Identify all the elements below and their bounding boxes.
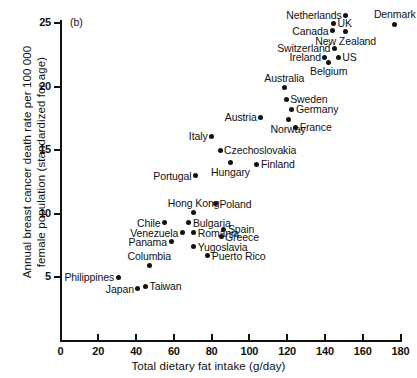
point-label-columbia: Columbia <box>127 251 171 262</box>
data-point-hong-kong <box>191 210 196 215</box>
point-label-hungary: Hungary <box>211 167 250 178</box>
data-point-venezuela <box>180 230 185 235</box>
y-tick-15 <box>54 149 60 151</box>
data-point-greece <box>219 234 224 239</box>
x-tick-label-160: 160 <box>348 345 378 357</box>
point-label-france: France <box>300 122 332 133</box>
y-axis-title-line2: female population (standardized for age) <box>34 7 48 317</box>
x-tick-100 <box>248 334 250 340</box>
data-point-denmark <box>392 22 397 27</box>
data-point-japan <box>135 286 140 291</box>
data-point-romania <box>191 230 196 235</box>
y-tick-5 <box>54 276 60 278</box>
data-point-canada <box>330 28 335 33</box>
x-tick-160 <box>362 334 364 340</box>
x-tick-label-140: 140 <box>310 345 340 357</box>
point-label-ireland: Ireland <box>290 52 321 63</box>
y-tick-20 <box>54 86 60 88</box>
point-label-australia: Australia <box>264 73 304 84</box>
data-point-czechoslovakia <box>218 148 223 153</box>
y-axis-title: Annual breast cancer death rate per 100 … <box>20 7 48 317</box>
point-label-austria: Austria <box>225 112 257 123</box>
point-label-panama: Panama <box>128 236 167 247</box>
x-tick-label-20: 20 <box>83 345 113 357</box>
point-label-hong-kong: Hong Kong <box>168 198 220 209</box>
data-point-columbia <box>147 263 152 268</box>
x-tick-label-80: 80 <box>197 345 227 357</box>
x-tick-label-180: 180 <box>386 345 416 357</box>
x-tick-20 <box>97 334 99 340</box>
data-point-us <box>336 55 341 60</box>
x-axis-line <box>60 340 402 342</box>
plot-area: 510152025 020406080100120140160180 Nethe… <box>0 0 417 378</box>
point-label-poland: Poland <box>219 198 251 209</box>
x-tick-label-0: 0 <box>46 345 76 357</box>
data-point-austria <box>258 115 263 120</box>
x-tick-80 <box>211 334 213 340</box>
point-label-philippines: Philippines <box>64 272 114 283</box>
data-point-hungary <box>228 160 233 165</box>
data-point-taiwan <box>143 284 148 289</box>
data-point-panama <box>169 239 174 244</box>
data-point-chile <box>162 220 167 225</box>
data-point-norway <box>286 117 291 122</box>
point-label-japan: Japan <box>106 283 134 294</box>
y-axis-title-line1: Annual breast cancer death rate per 100 … <box>20 7 34 317</box>
x-tick-120 <box>286 334 288 340</box>
point-label-puerto-rico: Puerto Rico <box>212 250 266 261</box>
x-tick-180 <box>400 334 402 340</box>
data-point-switzerland <box>332 46 337 51</box>
data-point-philippines <box>116 275 121 280</box>
panel-label: (b) <box>70 16 83 28</box>
data-point-ireland <box>322 55 327 60</box>
data-point-finland <box>254 162 259 167</box>
point-label-taiwan: Taiwan <box>150 281 182 292</box>
point-label-finland: Finland <box>261 159 295 170</box>
x-tick-140 <box>324 334 326 340</box>
scatter-plot-figure: 510152025 020406080100120140160180 Nethe… <box>0 0 417 378</box>
x-axis-title: Total dietary fat intake (g/day) <box>0 360 417 372</box>
data-point-new-zealand <box>343 29 348 34</box>
data-point-uk <box>331 21 336 26</box>
data-point-bulgaria <box>186 220 191 225</box>
point-label-germany: Germany <box>296 104 338 115</box>
point-label-denmark: Denmark <box>374 9 416 20</box>
x-tick-label-60: 60 <box>159 345 189 357</box>
x-tick-60 <box>173 334 175 340</box>
point-label-portugal: Portugal <box>153 170 191 181</box>
data-point-sweden <box>284 97 289 102</box>
data-point-france <box>293 125 298 130</box>
data-point-puerto-rico <box>205 253 210 258</box>
data-point-italy <box>209 134 214 139</box>
x-tick-label-40: 40 <box>121 345 151 357</box>
data-point-australia <box>282 85 287 90</box>
y-tick-10 <box>54 213 60 215</box>
point-label-czechoslovakia: Czechoslovakia <box>224 145 296 156</box>
point-label-uk: UK <box>337 18 351 29</box>
data-point-germany <box>289 107 294 112</box>
data-point-portugal <box>193 173 198 178</box>
data-point-yugoslavia <box>191 244 196 249</box>
y-axis-line <box>60 20 62 342</box>
point-label-netherlands: Netherlands <box>286 10 342 21</box>
x-tick-label-120: 120 <box>272 345 302 357</box>
y-tick-25 <box>54 22 60 24</box>
point-label-italy: Italy <box>189 131 208 142</box>
x-tick-40 <box>135 334 137 340</box>
point-label-belgium: Belgium <box>310 66 347 77</box>
x-tick-label-100: 100 <box>234 345 264 357</box>
point-label-us: US <box>342 52 356 63</box>
data-point-belgium <box>326 60 331 65</box>
